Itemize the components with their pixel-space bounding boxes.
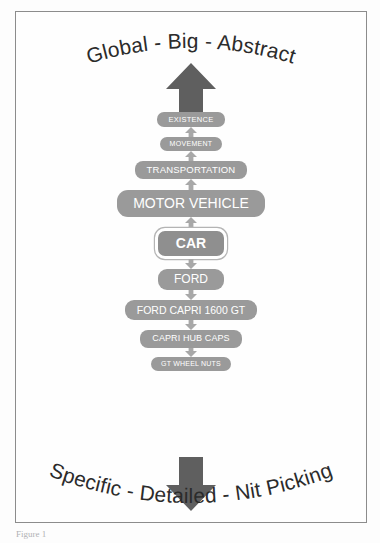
concept-node-ford[interactable]: FORD [158, 269, 224, 291]
concept-node-gt-wheel-nuts[interactable]: GT WHEEL NUTS [151, 357, 231, 371]
concept-node-existence[interactable]: EXISTENCE [157, 112, 224, 127]
ladder-row: MOVEMENT [16, 137, 366, 151]
ladder-row: CAR [16, 228, 366, 259]
up-arrow-icon [16, 127, 366, 137]
down-arrow-icon [16, 320, 366, 330]
concept-node-movement[interactable]: MOVEMENT [160, 137, 223, 151]
ladder-row: FORD CAPRI 1600 GT [16, 300, 366, 320]
up-arrow-icon [16, 151, 366, 161]
ladder-row: EXISTENCE [16, 112, 366, 127]
figure-caption: Figure 1 [16, 529, 46, 539]
ladder-row: GT WHEEL NUTS [16, 357, 366, 371]
down-arrow-icon [16, 290, 366, 300]
concept-node-car[interactable]: CAR [155, 228, 227, 259]
abstraction-ladder: EXISTENCEMOVEMENTTRANSPORTATIONMOTOR VEH… [16, 112, 366, 371]
concept-node-transportation[interactable]: TRANSPORTATION [135, 161, 248, 179]
ladder-row: FORD [16, 269, 366, 291]
up-arrow-icon [16, 217, 366, 228]
ladder-row: MOTOR VEHICLE [16, 190, 366, 217]
ladder-row: CAPRI HUB CAPS [16, 330, 366, 347]
concept-node-motor-vehicle[interactable]: MOTOR VEHICLE [117, 190, 265, 217]
down-arrow-icon [16, 348, 366, 357]
ladder-row: TRANSPORTATION [16, 161, 366, 179]
concept-node-ford-capri-1600-gt[interactable]: FORD CAPRI 1600 GT [125, 300, 258, 320]
figure-frame: Global - Big - Abstract EXISTENCEMOVEMEN… [15, 11, 367, 523]
big-down-arrow-icon [165, 456, 217, 512]
up-arrow-icon [16, 179, 366, 190]
down-arrow-icon [16, 259, 366, 269]
big-up-arrow-icon [165, 62, 217, 118]
concept-node-capri-hub-caps[interactable]: CAPRI HUB CAPS [140, 330, 241, 347]
